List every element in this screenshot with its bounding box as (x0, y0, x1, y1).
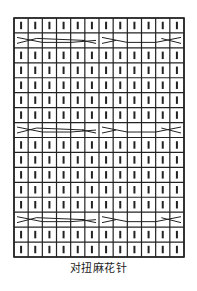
knit-stitch-icon (91, 171, 93, 178)
knit-stitch-icon (119, 111, 121, 118)
knit-stitch-icon (63, 52, 65, 59)
knit-stitch-icon (133, 67, 135, 74)
knit-stitch-icon (63, 111, 65, 118)
knit-stitch-icon (133, 81, 135, 88)
knit-stitch-icon (105, 96, 107, 103)
knit-stitch-icon (105, 22, 107, 29)
knit-stitch-icon (148, 231, 150, 238)
knit-stitch-icon (91, 231, 93, 238)
knit-stitch-icon (48, 171, 50, 178)
knit-stitch-icon (162, 52, 164, 59)
knit-stitch-icon (77, 186, 79, 193)
knit-stitch-icon (105, 186, 107, 193)
knit-stitch-icon (133, 186, 135, 193)
knit-stitch-icon (176, 81, 178, 88)
knit-stitch-icon (20, 22, 22, 29)
knit-stitch-icon (77, 201, 79, 208)
knit-stitch-icon (176, 231, 178, 238)
knit-stitch-icon (77, 171, 79, 178)
knit-stitch-icon (148, 81, 150, 88)
knit-stitch-icon (176, 52, 178, 59)
knit-stitch-icon (148, 52, 150, 59)
knit-stitch-icon (63, 96, 65, 103)
knit-stitch-icon (34, 141, 36, 148)
knit-stitch-icon (105, 81, 107, 88)
knit-stitch-icon (63, 156, 65, 163)
knit-stitch-icon (176, 111, 178, 118)
knit-stitch-icon (34, 171, 36, 178)
knit-stitch-icon (162, 67, 164, 74)
knit-stitch-icon (148, 96, 150, 103)
knit-stitch-icon (105, 231, 107, 238)
knit-stitch-icon (176, 156, 178, 163)
knit-stitch-icon (119, 231, 121, 238)
knit-stitch-icon (48, 186, 50, 193)
knit-stitch-icon (63, 22, 65, 29)
knit-stitch-icon (133, 171, 135, 178)
knit-stitch-icon (148, 186, 150, 193)
knit-stitch-icon (34, 186, 36, 193)
knit-stitch-icon (63, 231, 65, 238)
knit-stitch-icon (77, 141, 79, 148)
knit-stitch-icon (20, 141, 22, 148)
knit-stitch-icon (91, 201, 93, 208)
knit-stitch-icon (105, 201, 107, 208)
knit-stitch-icon (20, 96, 22, 103)
knit-stitch-icon (133, 156, 135, 163)
knit-stitch-icon (77, 111, 79, 118)
knit-stitch-icon (176, 246, 178, 253)
knit-stitch-icon (63, 186, 65, 193)
knit-stitch-icon (91, 186, 93, 193)
knit-stitch-icon (48, 156, 50, 163)
knit-stitch-icon (48, 52, 50, 59)
knit-stitch-icon (119, 81, 121, 88)
knit-stitch-icon (133, 246, 135, 253)
knit-stitch-icon (48, 141, 50, 148)
knit-stitch-icon (77, 246, 79, 253)
chart-caption: 对扭麻花针 (0, 259, 197, 275)
knit-stitch-icon (91, 156, 93, 163)
knit-stitch-icon (91, 81, 93, 88)
knit-stitch-icon (133, 52, 135, 59)
knit-stitch-icon (34, 81, 36, 88)
knit-stitch-icon (48, 231, 50, 238)
knit-stitch-icon (176, 67, 178, 74)
knit-stitch-icon (105, 156, 107, 163)
knit-stitch-icon (34, 52, 36, 59)
knit-stitch-icon (162, 186, 164, 193)
knit-stitch-icon (63, 246, 65, 253)
knit-stitch-icon (63, 81, 65, 88)
knit-stitch-icon (77, 96, 79, 103)
knit-stitch-icon (119, 171, 121, 178)
knit-stitch-icon (162, 141, 164, 148)
knit-stitch-icon (77, 67, 79, 74)
knit-stitch-icon (91, 96, 93, 103)
knit-stitch-icon (77, 81, 79, 88)
knit-stitch-icon (91, 111, 93, 118)
knit-stitch-icon (20, 231, 22, 238)
knit-stitch-icon (119, 67, 121, 74)
knit-stitch-icon (176, 96, 178, 103)
knit-stitch-icon (48, 67, 50, 74)
cable-right-cross-icon (102, 40, 116, 43)
knit-stitch-icon (77, 156, 79, 163)
knit-stitch-icon (176, 171, 178, 178)
knit-stitch-icon (162, 231, 164, 238)
knit-stitch-icon (48, 246, 50, 253)
knit-stitch-icon (148, 141, 150, 148)
knit-stitch-icon (63, 171, 65, 178)
knit-stitch-icon (34, 67, 36, 74)
cable-right-cross-icon (102, 220, 116, 223)
knit-stitch-icon (105, 246, 107, 253)
knit-stitch-icon (48, 201, 50, 208)
knit-stitch-icon (34, 231, 36, 238)
knit-stitch-icon (63, 67, 65, 74)
knit-stitch-icon (162, 96, 164, 103)
knit-stitch-icon (119, 96, 121, 103)
knit-stitch-icon (148, 111, 150, 118)
knit-stitch-icon (176, 201, 178, 208)
knit-stitch-icon (162, 171, 164, 178)
knit-stitch-icon (34, 156, 36, 163)
knit-stitch-icon (176, 22, 178, 29)
knit-stitch-icon (119, 22, 121, 29)
